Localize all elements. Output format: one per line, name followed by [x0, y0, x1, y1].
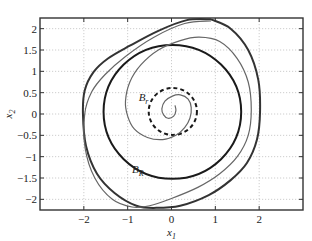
y-tick-label: 0 — [32, 108, 38, 120]
y-tick-label: 1 — [32, 65, 38, 77]
annotation-B-r: Br — [139, 91, 150, 106]
y-tick-label: 2 — [32, 23, 38, 35]
series-b-r-circle — [104, 45, 242, 179]
y-tick-label: 1.5 — [23, 44, 37, 56]
y-tick-label: −0.5 — [17, 129, 37, 141]
y-tick-label: 0.5 — [23, 87, 37, 99]
series-b-r-circle — [149, 88, 197, 135]
x-tick-label: −2 — [78, 213, 90, 225]
x-axis-label: x1 — [166, 226, 176, 241]
x-tick-label: 2 — [256, 213, 262, 225]
y-tick-label: −1 — [25, 151, 37, 163]
x-tick-label: −1 — [122, 213, 134, 225]
x-tick-label: 1 — [213, 213, 219, 225]
annotation-B-R: BR — [132, 163, 144, 178]
y-tick-label: −2 — [25, 193, 37, 205]
y-axis-label: x2 — [2, 110, 17, 120]
phase-portrait-chart: −2−101221.510.50−0.5−1−1.5−2 BrBR x1 x2 — [0, 0, 312, 241]
grid-layer — [40, 18, 303, 210]
x-tick-label: 0 — [169, 213, 175, 225]
y-tick-label: −1.5 — [17, 172, 37, 184]
series-layer — [83, 19, 260, 208]
annotation-subscript: R — [138, 169, 144, 178]
